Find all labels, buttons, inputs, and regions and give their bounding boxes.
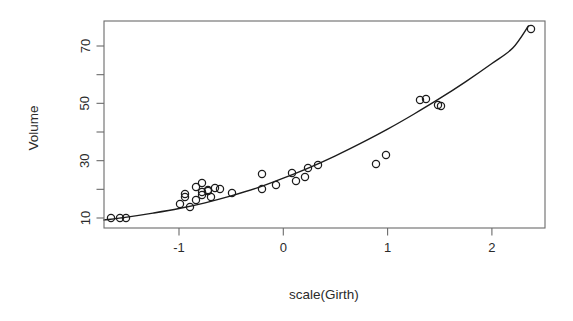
- x-tick-label: 2: [488, 240, 495, 255]
- x-tick-label: -1: [173, 240, 185, 255]
- y-tick-label: 50: [78, 96, 93, 110]
- r-plot-canvas: 10305070 -1012 Volume scale(Girth): [0, 0, 573, 321]
- y-tick-label: 10: [78, 211, 93, 225]
- y-tick-label: 70: [78, 39, 93, 53]
- y-axis-title: Volume: [26, 105, 41, 150]
- scatter-plot-svg: 10305070 -1012 Volume scale(Girth): [0, 0, 573, 321]
- y-tick-label: 30: [78, 153, 93, 167]
- x-tick-label: 1: [384, 240, 391, 255]
- x-tick-label: 0: [280, 240, 287, 255]
- x-axis-title: scale(Girth): [289, 287, 359, 302]
